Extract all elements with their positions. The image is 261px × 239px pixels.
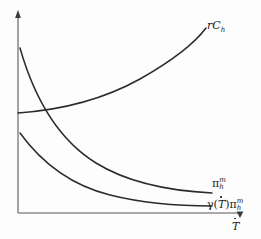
curve-label-gamma-arg: T (218, 199, 225, 210)
curve-label-pi-h-m-base: π (212, 177, 219, 190)
curve-label-rc-h-sub: h (221, 26, 226, 34)
curve-label-gamma-arg-letter: T (218, 198, 225, 211)
curve-label-pi-h-m: πmh (212, 177, 226, 190)
curve-pi-h-m (20, 48, 212, 193)
curve-label-gamma-pi-h-m: γ(T)πmh (207, 198, 243, 211)
x-axis-label-t: T (232, 221, 239, 232)
t-dot-accent-icon (220, 196, 222, 198)
axes-group (15, 10, 243, 218)
figure-container: rCh πmh γ(T)πmh T (0, 0, 261, 239)
curve-label-gamma-pi-indices: mh (237, 198, 244, 211)
curve-label-rc-h-base: rC (207, 19, 221, 32)
curve-label-gamma-pi-base: π (230, 198, 237, 211)
x-axis-arrow-icon (237, 212, 244, 219)
curve-rc-h (18, 28, 206, 113)
curve-label-gamma-prefix: γ( (207, 198, 218, 211)
curve-label-rc-h: rCh (207, 20, 225, 34)
curve-label-gamma-pi-sub: h (237, 205, 244, 212)
x-axis-label: T (232, 221, 239, 232)
curve-label-pi-h-m-sub: h (219, 184, 226, 191)
y-axis-arrow-icon (15, 10, 21, 18)
curve-gamma-pi-h-m (20, 133, 212, 206)
x-axis-label-letter: T (232, 220, 239, 233)
curve-label-pi-h-m-indices: mh (219, 177, 226, 190)
